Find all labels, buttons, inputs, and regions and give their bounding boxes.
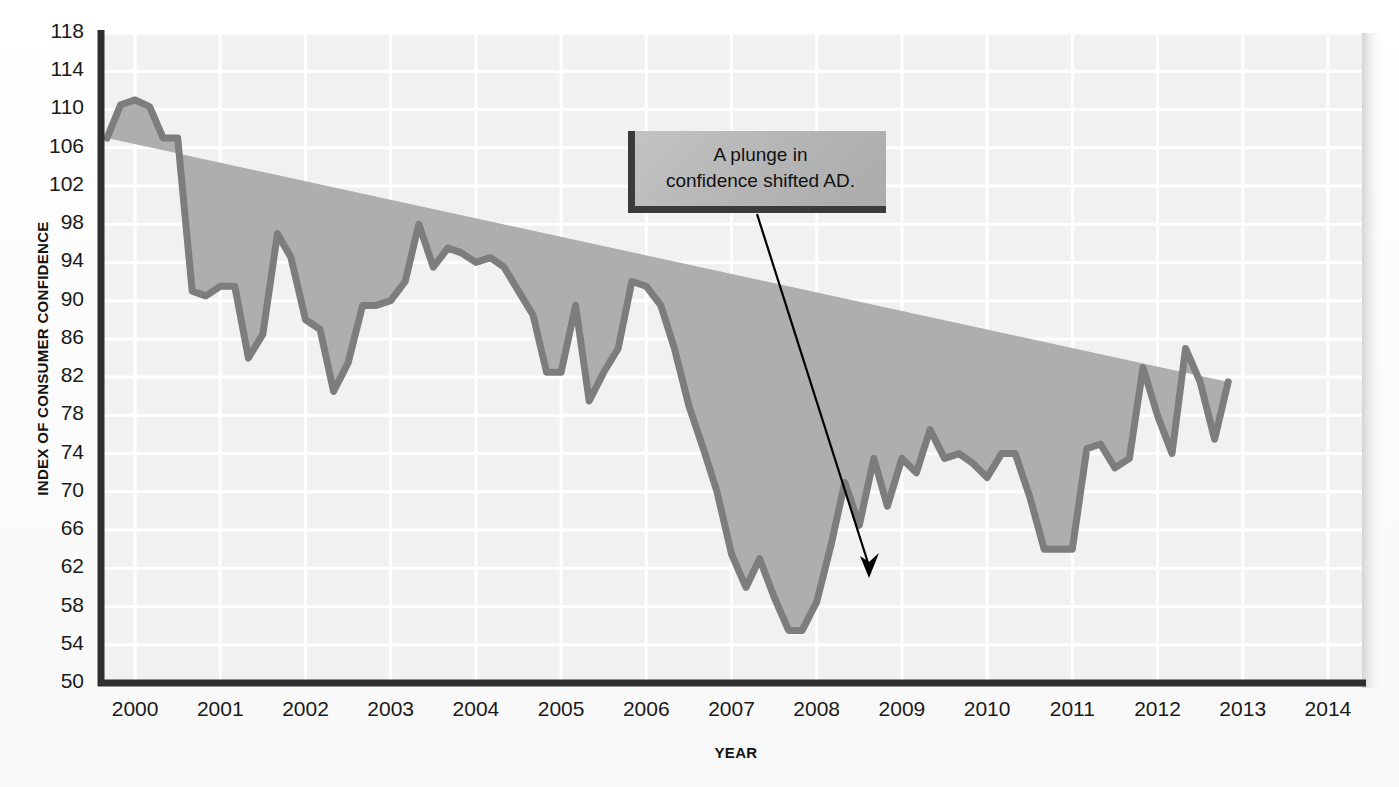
- y-axis-tick-label: 114: [34, 57, 84, 81]
- y-axis-tick-label: 106: [34, 134, 84, 158]
- x-axis-tick-label: 2007: [692, 697, 772, 721]
- x-axis-tick-label: 2010: [947, 697, 1027, 721]
- x-axis-tick-label: 2012: [1118, 697, 1198, 721]
- frame-shadow: [1362, 33, 1384, 688]
- annotation-callout: A plunge in confidence shifted AD.: [628, 131, 886, 213]
- x-axis-tick-label: 2011: [1032, 697, 1112, 721]
- y-axis-tick-label: 54: [34, 631, 84, 655]
- x-axis-tick-label: 2003: [351, 697, 431, 721]
- x-axis-tick-label: 2001: [180, 697, 260, 721]
- y-axis-tick-label: 66: [34, 516, 84, 540]
- consumer-confidence-chart: [0, 0, 1399, 787]
- y-axis-tick-label: 58: [34, 593, 84, 617]
- x-axis-tick-label: 2008: [777, 697, 857, 721]
- x-axis-tick-label: 2013: [1203, 697, 1283, 721]
- x-axis-tick-label: 2000: [95, 697, 175, 721]
- x-axis-tick-label: 2005: [521, 697, 601, 721]
- y-axis-tick-label: 110: [34, 95, 84, 119]
- annotation-callout-text: A plunge in confidence shifted AD.: [666, 142, 855, 194]
- x-axis-tick-label: 2014: [1288, 697, 1368, 721]
- y-axis-title: INDEX OF CONSUMER CONFIDENCE: [34, 209, 51, 509]
- x-axis-tick-label: 2002: [265, 697, 345, 721]
- x-axis-tick-label: 2009: [862, 697, 942, 721]
- annotation-line-1: A plunge in: [713, 144, 807, 165]
- y-axis-tick-label: 102: [34, 172, 84, 196]
- x-axis-tick-label: 2004: [436, 697, 516, 721]
- y-axis-tick-label: 62: [34, 554, 84, 578]
- x-axis-title: YEAR: [676, 744, 796, 761]
- x-axis-tick-label: 2006: [606, 697, 686, 721]
- y-axis-tick-label: 50: [34, 669, 84, 693]
- annotation-line-2: confidence shifted AD.: [666, 170, 855, 191]
- y-axis-tick-label: 118: [34, 19, 84, 43]
- chart-figure: 5054586266707478828690949810210611011411…: [0, 0, 1399, 787]
